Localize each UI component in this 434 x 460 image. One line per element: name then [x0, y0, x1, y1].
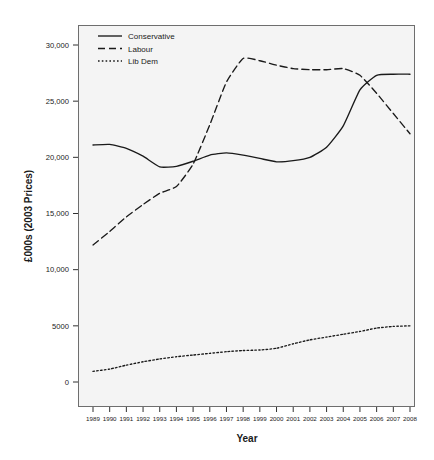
x-tick-label: 2003 [320, 415, 334, 422]
y-tick-label: 15,000 [46, 209, 69, 218]
x-tick-label: 1989 [86, 415, 100, 422]
legend-label-lib-dem: Lib Dem [128, 57, 158, 66]
legend-label-conservative: Conservative [128, 32, 175, 41]
x-tick-label: 2002 [303, 415, 317, 422]
x-tick-label: 1997 [220, 415, 234, 422]
x-tick-label: 2005 [353, 415, 367, 422]
x-tick-label: 1993 [153, 415, 167, 422]
y-tick-label: 30,000 [46, 41, 69, 50]
x-axis-title: Year [236, 433, 257, 444]
x-tick-label: 1999 [253, 415, 267, 422]
x-tick-label: 2007 [386, 415, 400, 422]
y-tick-label: 5000 [52, 322, 69, 331]
x-tick-label: 2006 [370, 415, 384, 422]
x-tick-label: 1992 [136, 415, 150, 422]
y-tick-label: 20,000 [46, 153, 69, 162]
chart-page: 0500010,00015,00020,00025,00030,000 1989… [0, 0, 434, 460]
line-chart: 0500010,00015,00020,00025,00030,000 1989… [0, 0, 434, 460]
x-tick-label: 2004 [336, 415, 350, 422]
y-tick-label: 25,000 [46, 97, 69, 106]
y-tick-label: 10,000 [46, 265, 69, 274]
x-tick-label: 2001 [286, 415, 300, 422]
x-tick-label: 1994 [170, 415, 184, 422]
x-tick-label: 1998 [236, 415, 250, 422]
x-tick-label: 1991 [119, 415, 133, 422]
y-axis-title: £000s (2003 Prices) [23, 170, 34, 262]
legend-label-labour: Labour [128, 45, 153, 54]
x-tick-label: 1996 [203, 415, 217, 422]
x-tick-label: 1995 [186, 415, 200, 422]
y-tick-label: 0 [65, 378, 69, 387]
x-tick-label: 2008 [403, 415, 417, 422]
x-tick-label: 2000 [270, 415, 284, 422]
x-tick-label: 1990 [103, 415, 117, 422]
